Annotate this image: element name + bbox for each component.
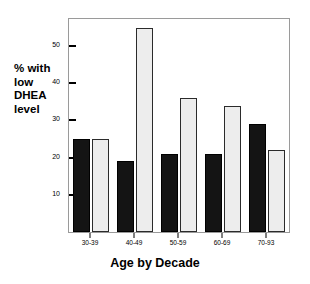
y-axis-tick-label: 20: [52, 153, 60, 160]
y-axis-label-line-4: level: [14, 103, 70, 117]
y-axis-tick-mark: [69, 45, 76, 47]
x-axis-group-label-40-49: 40-49: [126, 239, 143, 246]
bar-50-59-light: [180, 98, 197, 232]
bar-60-69-light: [224, 106, 241, 232]
x-axis-title: Age by Decade: [0, 256, 310, 270]
x-axis-tick-mark: [266, 233, 267, 238]
plot-area: 1020304050: [68, 18, 290, 233]
x-axis-group-label-70-93: 70-93: [258, 239, 275, 246]
bar-40-49-dark: [117, 161, 134, 232]
bar-70-93-light: [268, 150, 285, 232]
y-axis-label-line-1: % with: [14, 62, 70, 76]
y-axis-tick-label: 10: [52, 190, 60, 197]
bar-60-69-dark: [205, 154, 222, 232]
bar-70-93-dark: [249, 124, 266, 232]
x-axis-tick-mark: [222, 233, 223, 238]
bar-50-59-dark: [161, 154, 178, 232]
y-axis-label-line-3: DHEA: [14, 89, 70, 103]
y-axis-tick-mark: [69, 119, 76, 121]
x-axis-tick-mark: [90, 233, 91, 238]
y-axis-tick-label: 30: [52, 115, 60, 122]
y-axis-label-line-2: low: [14, 76, 70, 90]
bar-30-39-dark: [73, 139, 90, 232]
x-axis-tick-mark: [134, 233, 135, 238]
chart-figure: % with low DHEA level 1020304050 Age by …: [0, 0, 310, 284]
x-axis-group-label-50-59: 50-59: [170, 239, 187, 246]
y-axis-tick-mark: [69, 82, 76, 84]
x-axis-tick-mark: [178, 233, 179, 238]
y-axis-label: % with low DHEA level: [14, 62, 70, 116]
bar-40-49-light: [136, 28, 153, 232]
y-axis-tick-label: 40: [52, 78, 60, 85]
x-axis-group-label-60-69: 60-69: [214, 239, 231, 246]
x-axis-group-label-30-39: 30-39: [82, 239, 99, 246]
bar-30-39-light: [92, 139, 109, 232]
y-axis-tick-label: 50: [52, 41, 60, 48]
